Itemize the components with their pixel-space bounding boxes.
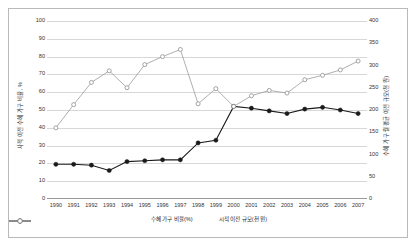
open-circle-marker-icon <box>9 217 31 225</box>
y-axis-left-tick-label: 20 <box>27 160 45 166</box>
data-point <box>89 80 93 84</box>
y-axis-right-tick-label: 0 <box>369 196 389 202</box>
legend-item[interactable]: 수혜 가구 비율(%) <box>151 217 193 223</box>
y-axis-right-tick-label: 150 <box>369 129 389 135</box>
data-point <box>54 126 58 130</box>
y-axis-left-title: 사적 이전 수혜 가구 비율, % <box>18 68 23 164</box>
y-axis-right-tick-label: 200 <box>369 107 389 113</box>
data-point <box>303 107 307 111</box>
data-point <box>125 86 129 90</box>
plot-area: 0102030405060708090100 05010015020025030… <box>47 21 367 199</box>
data-point <box>107 69 111 73</box>
data-point <box>72 103 76 107</box>
data-point <box>356 111 360 115</box>
data-point <box>160 158 164 162</box>
data-point <box>356 59 360 63</box>
y-axis-left-tick-label: 30 <box>27 143 45 149</box>
chart-figure: 사적 이전 수혜 가구 비율, % 수혜 가구 월평균 이전 규모(천 원) 0… <box>8 8 408 238</box>
y-axis-left-tick-label: 100 <box>27 18 45 24</box>
y-axis-left-tick-label: 0 <box>27 196 45 202</box>
y-axis-left-tick-label: 10 <box>27 178 45 184</box>
data-point <box>321 73 325 77</box>
data-point <box>72 162 76 166</box>
data-point <box>267 88 271 92</box>
legend-item[interactable]: 시적 이전 규모(천 원) <box>219 217 267 223</box>
data-point <box>107 168 111 172</box>
data-point <box>178 47 182 51</box>
y-axis-left-tick-label: 90 <box>27 36 45 42</box>
data-point <box>196 102 200 106</box>
data-point <box>196 141 200 145</box>
y-axis-left-tick-label: 80 <box>27 54 45 60</box>
data-point <box>143 63 147 67</box>
data-point <box>267 109 271 113</box>
data-point <box>143 159 147 163</box>
data-point <box>214 138 218 142</box>
y-axis-right-tick-label: 50 <box>369 174 389 180</box>
y-axis-right-tick-label: 100 <box>369 152 389 158</box>
data-point <box>320 105 324 109</box>
data-point <box>338 68 342 72</box>
data-point <box>303 78 307 82</box>
y-axis-right-title: 수혜 가구 월평균 이전 규모(천 원) <box>384 68 389 164</box>
data-point <box>89 163 93 167</box>
y-axis-right-tick-label: 350 <box>369 40 389 46</box>
y-axis-right-tick-label: 400 <box>369 18 389 24</box>
x-axis-tick-label: 2007 <box>347 203 369 209</box>
y-axis-right-tick-label: 250 <box>369 85 389 91</box>
data-point <box>338 108 342 112</box>
y-axis-left-tick-label: 50 <box>27 107 45 113</box>
data-point <box>214 87 218 91</box>
series-layer <box>47 21 367 199</box>
y-axis-left-tick-label: 60 <box>27 89 45 95</box>
y-axis-right-tick-label: 300 <box>369 63 389 69</box>
data-point <box>125 160 129 164</box>
data-point <box>161 55 165 59</box>
legend-label: 수혜 가구 비율(%) <box>151 217 193 223</box>
legend-label: 시적 이전 규모(천 원) <box>219 217 267 223</box>
data-point <box>249 94 253 98</box>
y-axis-left-tick-label: 70 <box>27 71 45 77</box>
series-line <box>56 49 358 127</box>
data-point <box>232 104 236 108</box>
data-point <box>285 111 289 115</box>
data-point <box>178 158 182 162</box>
data-point <box>285 91 289 95</box>
data-point <box>249 106 253 110</box>
chart-legend: 수혜 가구 비율(%)시적 이전 규모(천 원) <box>9 217 409 223</box>
series-line <box>56 106 358 170</box>
data-point <box>54 162 58 166</box>
y-axis-left-tick-label: 40 <box>27 125 45 131</box>
